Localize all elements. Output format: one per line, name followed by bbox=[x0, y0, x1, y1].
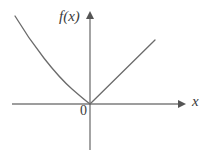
origin-label: 0 bbox=[80, 104, 87, 118]
graph-canvas bbox=[0, 0, 209, 156]
y-axis-label: f(x) bbox=[59, 9, 80, 24]
curve-right-branch bbox=[90, 40, 155, 104]
x-axis-label: x bbox=[192, 94, 199, 109]
function-graph-figure: f(x) x 0 bbox=[0, 0, 209, 156]
curve-left-branch bbox=[15, 16, 90, 104]
